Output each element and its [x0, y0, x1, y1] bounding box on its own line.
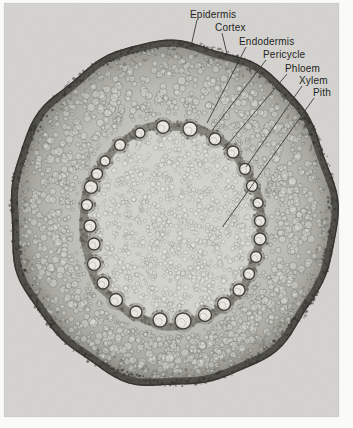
label-xylem: Xylem: [299, 75, 328, 86]
stem-cross-section-micrograph: EpidermisCortexEndodermisPericyclePhloem…: [0, 0, 353, 428]
label-pericycle: Pericycle: [263, 49, 306, 60]
label-pith: Pith: [313, 87, 331, 98]
label-endodermis: Endodermis: [239, 36, 294, 47]
label-epidermis: Epidermis: [190, 9, 236, 20]
label-cortex: Cortex: [215, 22, 246, 33]
figure-page: EpidermisCortexEndodermisPericyclePhloem…: [0, 0, 353, 428]
label-phloem: Phloem: [285, 63, 320, 74]
